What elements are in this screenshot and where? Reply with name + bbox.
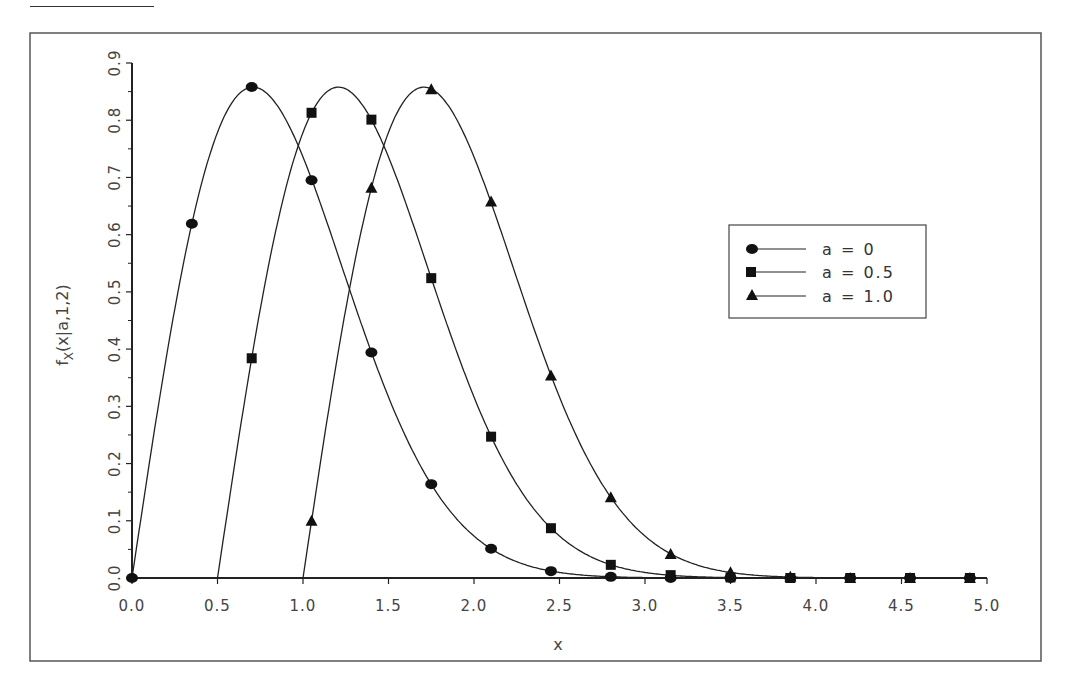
legend-label-a05: a = 0.5 [822, 263, 895, 282]
square-marker [307, 108, 317, 118]
curve-series-0 [132, 87, 987, 578]
svg-text:fX(x|a,1,2): fX(x|a,1,2) [53, 284, 76, 366]
x-tick-label: 5.0 [974, 597, 1001, 615]
y-tick-label: 0.0 [106, 565, 124, 592]
triangle-marker [485, 195, 497, 206]
triangle-marker [365, 182, 377, 193]
y-tick-label: 0.8 [106, 107, 124, 134]
y-tick-label: 0.1 [106, 507, 124, 534]
circle-marker [186, 219, 198, 229]
y-axis-label-rest: (x|a,1,2) [53, 284, 72, 352]
legend-label-a10: a = 1.0 [822, 287, 895, 306]
x-tick-label: 1.0 [290, 597, 317, 615]
circle-marker [485, 544, 497, 554]
x-tick-label: 1.5 [375, 597, 402, 615]
square-marker [247, 353, 257, 363]
square-marker [606, 560, 616, 570]
figure-frame [30, 33, 1041, 661]
x-tick-label: 4.5 [888, 597, 915, 615]
circle-marker [545, 566, 557, 576]
y-tick-label: 0.2 [106, 450, 124, 477]
circle-marker [246, 82, 258, 92]
circle-marker [605, 572, 617, 582]
chart: 0.00.51.01.52.02.53.03.54.04.55.00.00.10… [0, 0, 1068, 684]
curve-series-1 [218, 87, 988, 578]
x-tick-label: 4.0 [803, 597, 830, 615]
square-marker [666, 570, 676, 580]
x-tick-label: 3.5 [717, 597, 744, 615]
x-tick-label: 0.0 [119, 597, 146, 615]
circle-marker [126, 573, 138, 583]
curves [132, 87, 987, 578]
y-tick-label: 0.9 [106, 50, 124, 77]
legend: a = 0 a = 0.5 a = 1.0 [729, 225, 926, 318]
square-marker [486, 432, 496, 442]
y-tick-label: 0.3 [106, 393, 124, 420]
y-tick-label: 0.5 [106, 278, 124, 305]
circle-marker [306, 175, 318, 185]
y-tick-label: 0.6 [106, 221, 124, 248]
square-marker-icon [746, 267, 756, 277]
y-axis-label: fX(x|a,1,2) [53, 284, 76, 366]
triangle-marker [306, 515, 318, 526]
x-tick-label: 0.5 [204, 597, 231, 615]
circle-marker [425, 479, 437, 489]
square-marker [366, 115, 376, 125]
legend-label-a0: a = 0 [822, 240, 876, 259]
x-axis-label: x [553, 635, 562, 654]
triangle-marker [605, 491, 617, 502]
triangle-marker [425, 83, 437, 94]
x-tick-label: 2.5 [546, 597, 573, 615]
x-tick-label: 2.0 [461, 597, 488, 615]
markers [126, 82, 976, 583]
triangle-marker [545, 369, 557, 380]
circle-marker [365, 348, 377, 358]
square-marker [546, 523, 556, 533]
circle-marker-icon [746, 244, 758, 254]
x-tick-label: 3.0 [632, 597, 659, 615]
y-axis-label-sub: X [62, 352, 76, 360]
triangle-marker [665, 548, 677, 559]
square-marker [426, 273, 436, 283]
y-tick-label: 0.4 [106, 336, 124, 363]
curve-series-2 [303, 87, 987, 578]
y-tick-label: 0.7 [106, 164, 124, 191]
